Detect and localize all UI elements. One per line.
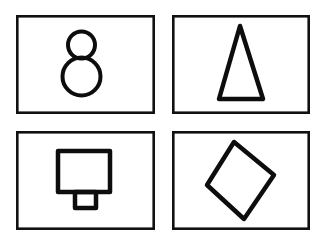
panel-top-right[interactable]: triangle xyxy=(172,15,310,114)
panel-bottom-right[interactable]: diamond xyxy=(172,131,310,230)
panel-top-left[interactable]: snowman xyxy=(16,15,155,114)
panel-bottom-left[interactable]: square-with-tab xyxy=(16,131,155,230)
panel-frame-border xyxy=(17,132,153,228)
panel-top-right-canvas xyxy=(172,15,310,114)
panel-bottom-right-canvas xyxy=(172,131,310,230)
shape-sheet: snowman triangle square-with-tab diamond xyxy=(0,0,324,240)
panel-top-left-canvas xyxy=(16,15,155,114)
panel-bottom-left-canvas xyxy=(16,131,155,230)
